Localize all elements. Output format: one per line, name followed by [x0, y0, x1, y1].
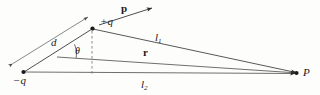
- label-field-point-P: P: [303, 67, 310, 78]
- label-position-vector-r: r: [143, 47, 148, 58]
- diagram-canvas: [0, 0, 320, 95]
- label-dipole-moment: p: [121, 3, 127, 14]
- label-positive-charge: +q: [100, 16, 113, 27]
- label-distance-l1-subscript: 1: [158, 37, 162, 45]
- field-point-dot: [294, 71, 298, 75]
- label-negative-charge: −q: [13, 75, 26, 86]
- label-distance-l2: l2: [141, 75, 148, 92]
- dipole-diagram: p +q −q d θ r l1 l2 P: [0, 0, 320, 95]
- label-angle-theta: θ: [75, 46, 80, 56]
- label-distance-l2-subscript: 2: [144, 84, 148, 92]
- segment-l2: [24, 72, 295, 74]
- charge-dot-positive: [90, 27, 94, 31]
- label-distance-l1: l1: [155, 28, 162, 45]
- label-separation-d: d: [51, 37, 57, 48]
